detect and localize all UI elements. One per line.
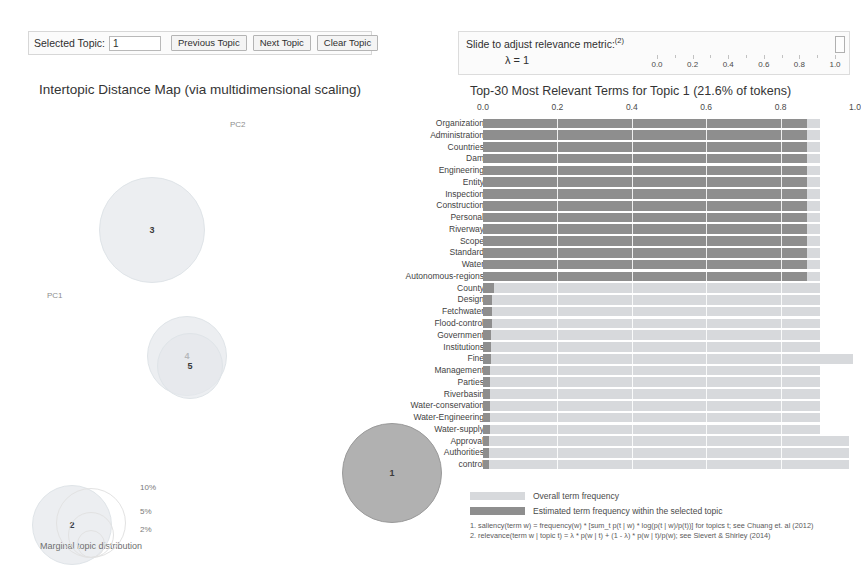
bar-term-label[interactable]: County <box>457 283 484 294</box>
slider-tick-label: 0.8 <box>794 60 805 69</box>
bar-row[interactable]: Administration <box>400 130 861 142</box>
bar-row[interactable]: Fine <box>400 353 861 365</box>
bar-row[interactable]: Water-conservation <box>400 400 861 412</box>
relevance-slider-panel: Slide to adjust relevance metric:(2) λ =… <box>458 31 850 75</box>
slider-tick-minor <box>710 55 711 58</box>
bar-row[interactable]: Engineering <box>400 165 861 177</box>
bar-estimated-frequency <box>483 119 807 129</box>
bar-term-label[interactable]: Flood-control <box>434 318 484 329</box>
bar-estimated-frequency <box>483 389 490 399</box>
bar-row[interactable]: Dam <box>400 153 861 165</box>
bar-term-label[interactable]: Standard <box>450 247 485 258</box>
bar-term-label[interactable]: Management <box>434 365 484 376</box>
next-topic-button[interactable]: Next Topic <box>253 35 311 51</box>
bar-term-label[interactable]: Construction <box>436 200 484 211</box>
bar-row[interactable]: Organization <box>400 118 861 130</box>
footnote-1: 1. saliency(term w) = frequency(w) * [su… <box>470 521 860 531</box>
bar-row[interactable]: Design <box>400 294 861 306</box>
bar-term-label[interactable]: Water <box>462 259 484 270</box>
bar-term-label[interactable]: Parties <box>458 377 484 388</box>
topic-circle-label-5: 5 <box>187 361 192 371</box>
bar-row[interactable]: Riverbasin <box>400 389 861 401</box>
bar-estimated-frequency <box>483 248 807 258</box>
bar-overall-frequency <box>483 448 849 458</box>
bar-row[interactable]: Water <box>400 259 861 271</box>
bar-estimated-frequency <box>483 213 807 223</box>
bar-estimated-frequency <box>483 189 807 199</box>
bar-row[interactable]: Management <box>400 365 861 377</box>
bar-row[interactable]: Parties <box>400 377 861 389</box>
bar-row[interactable]: Water-Engineering <box>400 412 861 424</box>
bar-row[interactable]: Authorities <box>400 447 861 459</box>
bar-term-label[interactable]: Approval <box>450 436 484 447</box>
relevance-slider-handle[interactable] <box>835 36 845 53</box>
bar-term-label[interactable]: Scope <box>460 236 484 247</box>
bar-overall-frequency <box>483 354 853 364</box>
bar-term-label[interactable]: Organization <box>436 118 484 129</box>
bar-row[interactable]: Countries <box>400 142 861 154</box>
bar-term-label[interactable]: Autonomous-regions <box>406 271 484 282</box>
bar-row[interactable]: Autonomous-regions <box>400 271 861 283</box>
bar-estimated-frequency <box>483 130 807 140</box>
bar-row[interactable]: Institutions <box>400 342 861 354</box>
bar-term-label[interactable]: Institutions <box>443 342 484 353</box>
bar-term-label[interactable]: Water-supply <box>434 424 484 435</box>
bar-term-label[interactable]: Water-conservation <box>411 400 484 411</box>
clear-topic-button[interactable]: Clear Topic <box>317 35 378 51</box>
selected-topic-input[interactable] <box>109 36 161 51</box>
bar-row[interactable]: Scope <box>400 236 861 248</box>
legend-label-overall: Overall term frequency <box>533 491 619 501</box>
slider-tick <box>835 55 836 59</box>
bar-term-label[interactable]: Riverbasin <box>444 389 484 400</box>
bar-row[interactable]: control <box>400 459 861 471</box>
bar-row[interactable]: County <box>400 283 861 295</box>
legend-swatch-overall-icon <box>470 492 525 500</box>
bar-row[interactable]: Approval <box>400 436 861 448</box>
bar-row[interactable]: Fetchwater <box>400 306 861 318</box>
bar-term-label[interactable]: Fetchwater <box>442 306 484 317</box>
bar-term-label[interactable]: Personal <box>450 212 484 223</box>
bar-term-label[interactable]: Countries <box>448 142 484 153</box>
bar-row[interactable]: Personal <box>400 212 861 224</box>
bar-term-label[interactable]: Authorities <box>444 447 484 458</box>
bar-row[interactable]: Government <box>400 330 861 342</box>
slider-caption-text: Slide to adjust relevance metric: <box>466 38 615 50</box>
bar-row[interactable]: Construction <box>400 200 861 212</box>
bar-row[interactable]: Flood-control <box>400 318 861 330</box>
bar-overall-frequency <box>483 330 820 340</box>
bar-row[interactable]: Riverway <box>400 224 861 236</box>
bar-estimated-frequency <box>483 425 490 435</box>
bar-term-label[interactable]: Inspection <box>445 189 484 200</box>
legend-swatch-estimated-icon <box>470 507 525 515</box>
bar-term-label[interactable]: Engineering <box>439 165 484 176</box>
topic-circle-label-1: 1 <box>389 468 394 478</box>
pc1-axis-label: PC1 <box>47 291 63 300</box>
previous-topic-button[interactable]: Previous Topic <box>171 35 247 51</box>
bar-term-label[interactable]: Administration <box>430 130 484 141</box>
bar-term-label[interactable]: Water-Engineering <box>413 412 484 423</box>
x-axis-tick-label: 0.8 <box>775 102 787 112</box>
chart-gridline <box>706 118 707 471</box>
bar-term-label[interactable]: Dam <box>466 153 484 164</box>
bar-estimated-frequency <box>483 260 807 270</box>
bar-term-label[interactable]: Fine <box>467 353 484 364</box>
bar-term-label[interactable]: Design <box>458 294 484 305</box>
bar-row[interactable]: Inspection <box>400 189 861 201</box>
bar-estimated-frequency <box>483 319 492 329</box>
legend-label-estimated: Estimated term frequency within the sele… <box>533 506 722 516</box>
bar-row[interactable]: Standard <box>400 247 861 259</box>
bar-row[interactable]: Entity <box>400 177 861 189</box>
bar-row[interactable]: Water-supply <box>400 424 861 436</box>
barchart-title: Top-30 Most Relevant Terms for Topic 1 (… <box>400 84 861 98</box>
slider-tick-label: 0.2 <box>687 60 698 69</box>
bar-estimated-frequency <box>483 413 490 423</box>
bar-estimated-frequency <box>483 201 807 211</box>
bar-term-label[interactable]: Riverway <box>449 224 484 235</box>
bar-term-label[interactable]: Government <box>437 330 484 341</box>
intertopic-map-title: Intertopic Distance Map (via multidimens… <box>0 82 400 97</box>
bar-term-label[interactable]: control <box>458 459 484 470</box>
bar-term-label[interactable]: Entity <box>463 177 484 188</box>
bar-estimated-frequency <box>483 436 489 446</box>
barchart-x-axis: 0.00.20.40.60.81.0 <box>400 102 861 116</box>
relevance-slider-track[interactable]: 0.00.20.40.60.81.0 <box>649 35 845 73</box>
